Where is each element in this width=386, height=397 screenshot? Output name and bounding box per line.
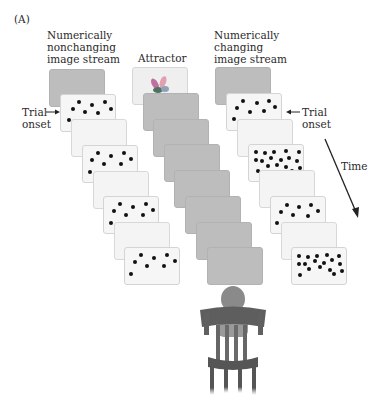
trial-onset-right-label: Trial onset — [302, 106, 331, 130]
time-arrow-icon — [322, 136, 362, 220]
stream-card-dots — [124, 247, 180, 285]
column-title-nonchanging: Numerically nonchanging image stream — [47, 29, 120, 65]
column-title-attractor: Attractor — [138, 52, 187, 64]
arrow-left-icon — [286, 108, 300, 116]
child-in-chair-illustration — [188, 285, 278, 397]
stream-card-dots — [291, 247, 347, 285]
column-title-changing: Numerically changing image stream — [214, 29, 287, 65]
panel-label: (A) — [14, 13, 30, 25]
attractor-card-gray — [207, 247, 263, 285]
arrow-right-icon — [46, 108, 60, 116]
